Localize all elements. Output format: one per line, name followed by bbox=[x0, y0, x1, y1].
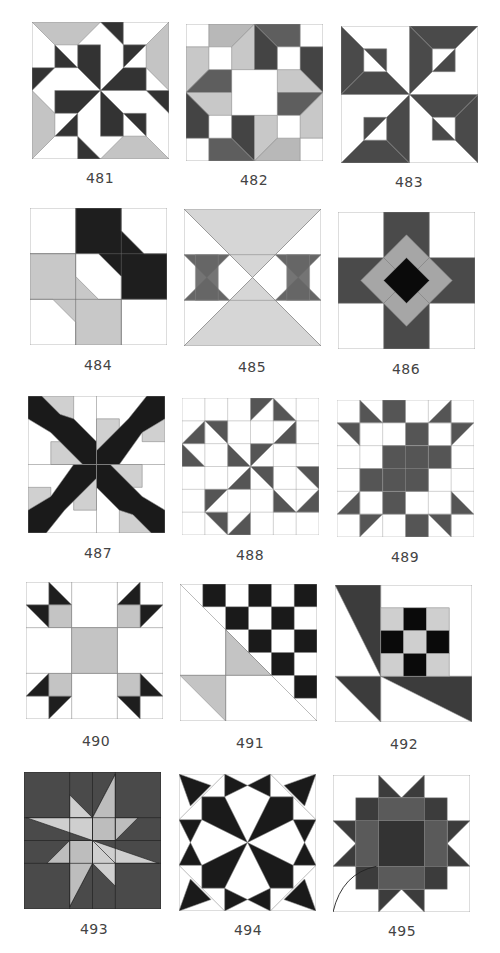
block-number-494: 494 bbox=[208, 922, 288, 938]
quilt-block-487 bbox=[28, 396, 165, 533]
quilt-block-492-diagram bbox=[335, 585, 472, 722]
quilt-block-489-diagram bbox=[337, 400, 474, 537]
block-number-483: 483 bbox=[369, 174, 449, 190]
quilt-block-495 bbox=[333, 775, 470, 912]
block-number-492: 492 bbox=[364, 736, 444, 752]
quilt-block-484-diagram bbox=[30, 208, 167, 345]
quilt-block-494 bbox=[179, 774, 316, 911]
quilt-block-491-diagram bbox=[180, 584, 317, 721]
block-number-489: 489 bbox=[365, 549, 445, 565]
quilt-block-492 bbox=[335, 585, 472, 722]
quilt-block-490 bbox=[26, 582, 163, 719]
quilt-block-483 bbox=[341, 26, 478, 163]
quilt-block-482 bbox=[186, 24, 323, 161]
block-number-482: 482 bbox=[214, 172, 294, 188]
quilt-block-486-diagram bbox=[338, 212, 475, 349]
block-number-488: 488 bbox=[210, 547, 290, 563]
quilt-block-493-diagram bbox=[24, 772, 161, 909]
quilt-block-486 bbox=[338, 212, 475, 349]
quilt-block-485 bbox=[184, 209, 321, 346]
quilt-block-482-diagram bbox=[186, 24, 323, 161]
quilt-block-481 bbox=[32, 22, 169, 159]
quilt-block-495-diagram bbox=[333, 775, 470, 912]
block-number-486: 486 bbox=[366, 361, 446, 377]
block-number-495: 495 bbox=[362, 923, 442, 939]
quilt-block-491 bbox=[180, 584, 317, 721]
block-number-484: 484 bbox=[58, 357, 138, 373]
block-number-485: 485 bbox=[212, 359, 292, 375]
block-number-490: 490 bbox=[56, 733, 136, 749]
quilt-block-487-diagram bbox=[28, 396, 165, 533]
quilt-block-485-diagram bbox=[184, 209, 321, 346]
quilt-block-494-diagram bbox=[179, 774, 316, 911]
quilt-block-490-diagram bbox=[26, 582, 163, 719]
block-number-493: 493 bbox=[54, 921, 134, 937]
quilt-block-481-diagram bbox=[32, 22, 169, 159]
quilt-block-489 bbox=[337, 400, 474, 537]
quilt-block-488 bbox=[182, 398, 319, 535]
quilt-block-488-diagram bbox=[182, 398, 319, 535]
block-number-491: 491 bbox=[210, 735, 290, 751]
quilt-block-493 bbox=[24, 772, 161, 909]
block-number-487: 487 bbox=[58, 545, 138, 561]
block-number-481: 481 bbox=[60, 170, 140, 186]
quilt-block-483-diagram bbox=[341, 26, 478, 163]
quilt-block-484 bbox=[30, 208, 167, 345]
